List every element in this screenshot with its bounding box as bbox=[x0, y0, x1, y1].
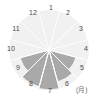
axis-unit-label: (月) bbox=[76, 86, 87, 93]
tick-label-month-1: 1 bbox=[47, 4, 55, 11]
tick-label-month-12: 12 bbox=[27, 9, 39, 16]
sector-group bbox=[9, 10, 89, 90]
tick-label-month-8: 8 bbox=[27, 80, 35, 87]
tick-label-month-6: 6 bbox=[63, 80, 71, 87]
tick-label-month-11: 11 bbox=[10, 25, 22, 32]
tick-label-month-10: 10 bbox=[5, 45, 17, 52]
tick-label-month-4: 4 bbox=[82, 45, 90, 52]
tick-label-month-3: 3 bbox=[77, 25, 85, 32]
tick-label-month-7: 7 bbox=[46, 87, 54, 94]
radial-month-chart: 123456789101112 (月) bbox=[0, 0, 98, 103]
tick-label-month-5: 5 bbox=[78, 64, 86, 71]
tick-label-month-2: 2 bbox=[64, 9, 72, 16]
tick-label-month-9: 9 bbox=[14, 64, 22, 71]
